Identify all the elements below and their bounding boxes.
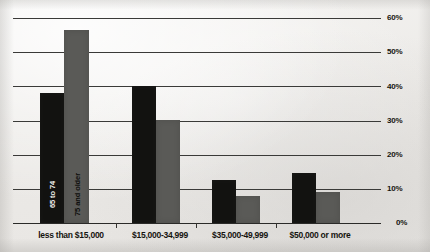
bar-65to74-50000-or-more bbox=[292, 173, 316, 223]
bar-75plus-35000-49999 bbox=[236, 196, 260, 223]
axis-baseline bbox=[13, 223, 381, 224]
bar-75plus-50000-or-more bbox=[316, 192, 340, 223]
category-tick-1 bbox=[116, 223, 117, 228]
ytick-label-30: 30% bbox=[387, 117, 402, 125]
ytick-label-50: 50% bbox=[387, 48, 402, 56]
bar-75plus-less-than-15000: 75 and older bbox=[64, 30, 89, 223]
category-tick-2 bbox=[196, 223, 197, 228]
bar-chart: 65 to 74 75 and older 60% 50% 40% 30% 20… bbox=[0, 0, 430, 252]
category-tick-3 bbox=[276, 223, 277, 228]
bar-inline-label-75plus: 75 and older bbox=[72, 173, 81, 216]
gridline-60 bbox=[13, 18, 381, 19]
plot-area: 65 to 74 75 and older bbox=[13, 18, 381, 223]
bar-inline-label-65to74: 65 to 74 bbox=[48, 181, 57, 208]
xtick-label-50000-or-more: $50,000 or more bbox=[268, 230, 372, 240]
bar-65to74-15000-34999 bbox=[132, 86, 156, 223]
ytick-label-40: 40% bbox=[387, 83, 402, 91]
ytick-label-20: 20% bbox=[387, 151, 402, 159]
bar-75plus-15000-34999 bbox=[156, 120, 180, 223]
bar-65to74-less-than-15000: 65 to 74 bbox=[40, 93, 64, 223]
ytick-label-0: 0% bbox=[396, 219, 407, 227]
bar-65to74-35000-49999 bbox=[212, 180, 236, 223]
ytick-label-10: 10% bbox=[387, 185, 402, 193]
ytick-label-60: 60% bbox=[387, 14, 402, 22]
